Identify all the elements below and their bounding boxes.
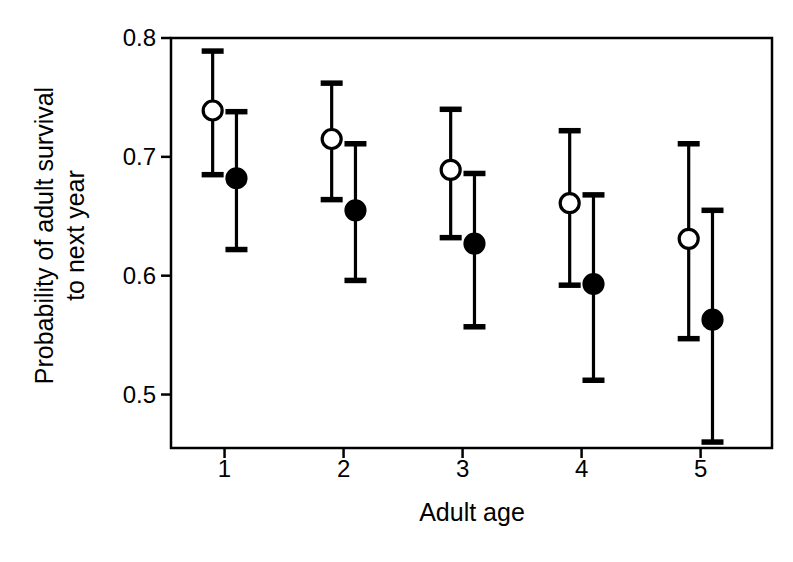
x-tick-label: 5 (681, 455, 721, 483)
filled-circle-marker (227, 169, 246, 188)
y-tick-label: 0.7 (90, 143, 156, 171)
y-tick-label: 0.6 (90, 262, 156, 290)
data-point-group (701, 210, 723, 442)
data-point-group (440, 109, 462, 237)
open-circle-marker (322, 130, 341, 149)
open-circle-marker (441, 160, 460, 179)
data-point-group (344, 144, 366, 281)
data-point-group (463, 173, 485, 326)
x-tick-label: 4 (562, 455, 602, 483)
data-point-group (321, 83, 343, 199)
filled-circle-marker (584, 275, 603, 294)
y-tick-label: 0.8 (90, 24, 156, 52)
data-point-group (678, 144, 700, 339)
filled-circle-marker (465, 234, 484, 253)
y-tick-label: 0.5 (90, 381, 156, 409)
open-circle-marker (679, 229, 698, 248)
x-tick-label: 1 (205, 455, 245, 483)
open-circle-marker (560, 194, 579, 213)
x-tick-label: 2 (324, 455, 364, 483)
data-point-group (225, 112, 247, 250)
data-point-group (202, 51, 224, 175)
data-point-group (559, 131, 581, 285)
x-axis-title: Adult age (170, 498, 774, 527)
data-point-group (582, 195, 604, 380)
filled-circle-marker (346, 201, 365, 220)
figure-panel: Probability of adult survival to next ye… (0, 0, 793, 562)
x-tick-label: 3 (443, 455, 483, 483)
filled-circle-marker (703, 310, 722, 329)
open-circle-marker (203, 101, 222, 120)
